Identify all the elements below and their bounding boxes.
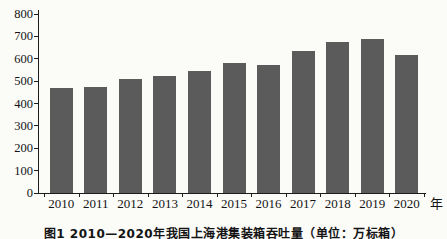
y-tick-mark	[34, 125, 38, 126]
y-tick-label: 500	[0, 74, 33, 88]
x-tick-mark	[424, 193, 425, 197]
bar-2017	[292, 51, 315, 193]
bar-chart: 年 01002003004005006007008002010201120122…	[0, 0, 447, 239]
y-tick-label: 600	[0, 52, 33, 66]
x-axis-line	[38, 193, 426, 194]
x-tick-mark	[79, 193, 80, 197]
y-tick-label: 400	[0, 97, 33, 111]
y-tick-mark	[34, 103, 38, 104]
x-tick-mark	[44, 193, 45, 197]
y-tick-mark	[34, 81, 38, 82]
chart-screenshot: 年 01002003004005006007008002010201120122…	[0, 0, 447, 239]
y-tick-mark	[34, 193, 38, 194]
y-tick-mark	[34, 148, 38, 149]
x-tick-label: 2020	[387, 197, 427, 211]
x-tick-mark	[217, 193, 218, 197]
y-tick-mark	[34, 36, 38, 37]
x-tick-mark	[355, 193, 356, 197]
y-tick-label: 300	[0, 119, 33, 133]
y-tick-mark	[34, 58, 38, 59]
y-axis-line	[38, 10, 39, 194]
x-tick-mark	[182, 193, 183, 197]
bar-2011	[84, 87, 107, 193]
x-tick-mark	[113, 193, 114, 197]
bar-2019	[361, 39, 384, 193]
x-tick-mark	[251, 193, 252, 197]
x-axis-unit-label: 年	[430, 197, 443, 211]
x-tick-mark	[389, 193, 390, 197]
bar-2018	[326, 42, 349, 193]
y-tick-label: 200	[0, 141, 33, 155]
x-tick-mark	[148, 193, 149, 197]
y-tick-mark	[34, 14, 38, 15]
bar-2010	[50, 88, 73, 193]
y-tick-label: 100	[0, 164, 33, 178]
bar-2013	[153, 76, 176, 193]
y-tick-label: 800	[0, 7, 33, 21]
x-tick-mark	[320, 193, 321, 197]
y-tick-label: 0	[0, 186, 33, 200]
y-tick-mark	[34, 170, 38, 171]
bar-2012	[119, 79, 142, 193]
figure-caption: 图1 2010—2020年我国上海港集装箱吞吐量（单位：万标箱）	[0, 227, 447, 239]
bar-2016	[257, 65, 280, 193]
bar-2020	[395, 55, 418, 193]
y-tick-label: 700	[0, 29, 33, 43]
x-tick-mark	[286, 193, 287, 197]
bar-2015	[223, 63, 246, 193]
bar-2014	[188, 71, 211, 193]
